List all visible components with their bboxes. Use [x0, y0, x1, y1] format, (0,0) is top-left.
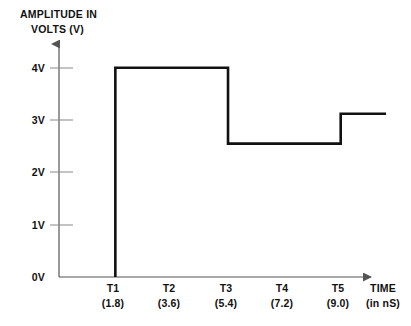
y-tick-label-4v: 4V — [32, 62, 45, 74]
x-tick-value-t3: (5.4) — [215, 297, 238, 309]
x-tick-label-t3: T3 — [220, 282, 233, 294]
x-tick-value-t1: (1.8) — [102, 297, 125, 309]
y-tick-label-2v: 2V — [32, 166, 45, 178]
x-tick-label-t4: T4 — [276, 282, 289, 294]
x-tick-label-t5: T5 — [332, 282, 345, 294]
x-axis-title-line1: TIME — [370, 282, 396, 294]
chart-canvas: 4V 3V 2V 1V 0V AMPLITUDE IN VOLTS (V) T1… — [0, 0, 411, 326]
x-tick-value-t2: (3.6) — [158, 297, 181, 309]
waveform-trace — [115, 68, 386, 277]
x-axis-title-line2: (in nS) — [366, 297, 400, 309]
y-tick-label-0v: 0V — [32, 271, 45, 283]
y-axis-title-line2: VOLTS (V) — [31, 23, 84, 35]
x-tick-label-t2: T2 — [163, 282, 176, 294]
x-tick-value-t4: (7.2) — [271, 297, 294, 309]
y-tick-label-3v: 3V — [32, 114, 45, 126]
waveform-chart: 4V 3V 2V 1V 0V AMPLITUDE IN VOLTS (V) T1… — [0, 0, 411, 326]
x-tick-label-t1: T1 — [107, 282, 120, 294]
y-axis-title-line1: AMPLITUDE IN — [20, 8, 97, 20]
x-tick-value-t5: (9.0) — [327, 297, 350, 309]
y-tick-label-1v: 1V — [32, 219, 45, 231]
